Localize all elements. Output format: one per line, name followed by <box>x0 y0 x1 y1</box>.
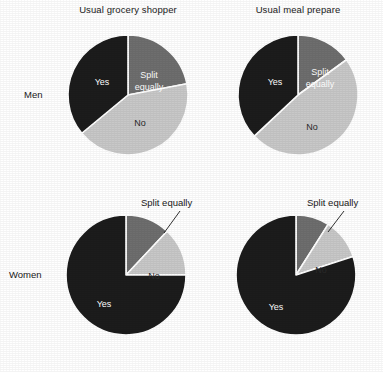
slice-label-yes: Yes <box>95 77 110 87</box>
slice-label-split-equally-line2: equally <box>306 79 335 89</box>
slice-label-yes: Yes <box>268 77 283 87</box>
slice-label-yes: Yes <box>269 302 284 312</box>
pie-slices-men-meal <box>238 35 358 155</box>
slice-label-no: No <box>306 122 318 132</box>
pie-chart-men-meal-prepare: Split equally No Yes <box>228 25 368 165</box>
slice-label-no: No <box>148 271 160 281</box>
pie-chart-women-grocery-shopper: No Yes <box>56 205 196 345</box>
pie-svg-women-meal: No Yes <box>226 205 366 345</box>
pie-svg-men-meal: Split equally No Yes <box>228 25 368 165</box>
slice-label-yes: Yes <box>97 299 112 309</box>
slice-label-no: No <box>315 265 327 275</box>
pie-chart-men-grocery-shopper: Split equally No Yes <box>58 25 198 165</box>
pie-chart-figure: Usual grocery shopper Usual meal prepare… <box>0 0 383 372</box>
slice-label-split-equally-line2: equally <box>135 82 164 92</box>
row-label-women: Women <box>9 269 42 280</box>
row-label-men: Men <box>24 89 42 100</box>
column-title-meal-prepare: Usual meal prepare <box>238 4 358 15</box>
pie-svg-women-grocery: No Yes <box>56 205 196 345</box>
callout-label-split-equally-women-meal: Split equally <box>307 197 358 208</box>
pie-slices-women-meal <box>236 215 356 335</box>
pie-svg-men-grocery: Split equally No Yes <box>58 25 198 165</box>
slice-label-no: No <box>134 118 146 128</box>
pie-slices-men-grocery <box>68 35 188 155</box>
callout-label-split-equally-women-grocery: Split equally <box>141 197 192 208</box>
slice-label-split-equally-line1: Split <box>311 67 329 77</box>
pie-chart-women-meal-prepare: No Yes <box>226 205 366 345</box>
slice-label-split-equally-line1: Split <box>140 70 158 80</box>
pie-slices-women-grocery <box>66 215 186 335</box>
column-title-grocery-shopper: Usual grocery shopper <box>68 4 188 15</box>
